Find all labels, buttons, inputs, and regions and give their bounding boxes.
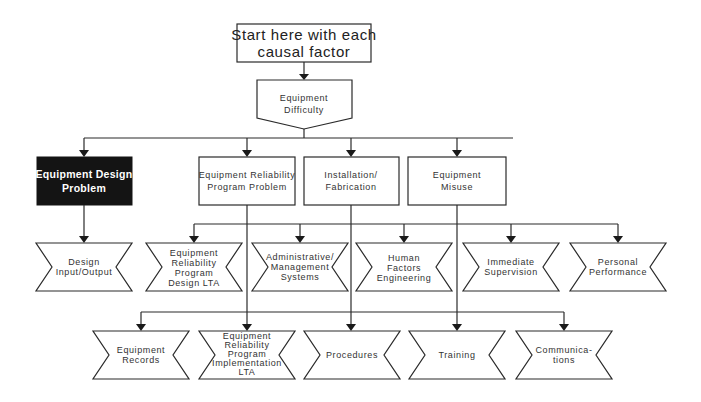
arrow-head-icon — [506, 236, 516, 243]
arrow-head-icon — [346, 324, 356, 331]
node-human-factors-engineering: Human Factors Engineering — [356, 243, 452, 291]
node-label-line: Personal — [598, 257, 638, 267]
node-personal-performance: Personal Performance — [570, 243, 666, 291]
arrow-head-icon — [559, 324, 569, 331]
arrow-head-icon — [189, 236, 199, 243]
start-box: Start here with each causal factor — [231, 24, 376, 62]
node-immediate-supervision: Immediate Supervision — [463, 243, 559, 291]
node-label-line: Engineering — [377, 273, 432, 283]
arrow-head-icon — [242, 150, 252, 157]
arrow-head-icon — [299, 74, 309, 80]
arrow-head-icon — [399, 236, 409, 243]
node-label-line: Equipment — [117, 345, 165, 355]
problem-label-line-1: Equipment Design — [36, 168, 133, 180]
node-label-line: tions — [553, 355, 575, 365]
start-box-line-1: Start here with each — [231, 26, 376, 43]
node-label-line: Program — [175, 268, 214, 278]
arrow-head-icon — [136, 324, 146, 331]
arrow-head-icon — [295, 236, 305, 243]
node-label-line: Human — [388, 253, 420, 263]
node-label-line: Systems — [281, 272, 320, 282]
arrow-head-icon — [452, 150, 462, 157]
node-label-line: Equipment — [170, 248, 218, 258]
root-cause-tree-diagram: Start here with each causal factor Equip… — [0, 0, 701, 402]
arrow-head-icon — [346, 150, 356, 157]
node-label-line: Supervision — [484, 267, 538, 277]
problem-installation-fabrication: Installation/ Fabrication — [304, 157, 399, 205]
node-label-line: Training — [439, 350, 476, 360]
problem-label-line-2: Fabrication — [325, 182, 376, 192]
node-equipment-records: Equipment Records — [93, 331, 189, 379]
node-label-line: Communica- — [535, 345, 592, 355]
start-box-line-2: causal factor — [258, 43, 351, 60]
node-design-input-output: Design Input/Output — [36, 243, 132, 291]
node-label-line: Procedures — [326, 350, 378, 360]
arrow-head-icon — [79, 150, 89, 157]
node-training: Training — [409, 331, 505, 379]
arrow-head-icon — [613, 236, 623, 243]
problem-equipment-reliability-program: Equipment Reliability Program Problem — [199, 157, 296, 205]
problem-label-line-2: Program Problem — [207, 182, 287, 192]
node-label-line: Factors — [387, 263, 421, 273]
node-label-line: Performance — [589, 267, 647, 277]
problem-label-line-1: Equipment Reliability — [199, 170, 296, 180]
node-label-line: Input/Output — [56, 267, 113, 277]
node-label-line: Records — [122, 355, 160, 365]
category-line-2: Difficulty — [284, 105, 324, 115]
problem-label-line-1: Equipment — [433, 170, 481, 180]
node-equipment-reliability-program-implementation-lta: Equipment Reliability Program Implementa… — [199, 331, 295, 379]
arrow-head-icon — [452, 324, 462, 331]
arrow-head-icon — [79, 236, 89, 243]
problem-equipment-design: Equipment Design Problem — [36, 157, 133, 205]
node-label-line: Design LTA — [168, 278, 220, 288]
node-administrative-management-systems: Administrative/ Management Systems — [252, 243, 348, 291]
problem-label-line-2: Problem — [62, 182, 106, 194]
problem-equipment-misuse: Equipment Misuse — [408, 157, 506, 205]
node-communications: Communica- tions — [516, 331, 612, 379]
node-label-line: Immediate — [487, 257, 534, 267]
category-equipment-difficulty: Equipment Difficulty — [257, 80, 352, 129]
problem-label-line-1: Installation/ — [324, 170, 377, 180]
node-label-line: Design — [68, 257, 100, 267]
node-label-line: Management — [271, 262, 330, 272]
problem-label-line-2: Misuse — [441, 182, 473, 192]
node-procedures: Procedures — [304, 331, 400, 379]
category-line-1: Equipment — [280, 93, 328, 103]
node-label-line: Administrative/ — [266, 252, 334, 262]
node-label-line: LTA — [239, 367, 256, 377]
arrow-head-icon — [242, 324, 252, 331]
node-equipment-reliability-program-design-lta: Equipment Reliability Program Design LTA — [146, 243, 242, 291]
node-label-line: Reliability — [171, 258, 216, 268]
